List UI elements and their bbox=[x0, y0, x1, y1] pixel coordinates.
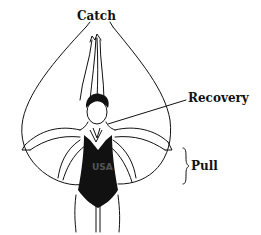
recovery-leader-line bbox=[108, 100, 186, 124]
suit-text: USA bbox=[92, 162, 113, 172]
arm-path-outline bbox=[22, 27, 86, 185]
swimmer-illustration: USA bbox=[0, 0, 261, 235]
pull-brace-icon bbox=[183, 148, 189, 184]
label-pull: Pull bbox=[191, 160, 218, 172]
label-catch: Catch bbox=[77, 10, 116, 22]
label-recovery: Recovery bbox=[188, 92, 249, 104]
swim-stroke-diagram: USA Catch Recovery Pull bbox=[0, 0, 261, 235]
